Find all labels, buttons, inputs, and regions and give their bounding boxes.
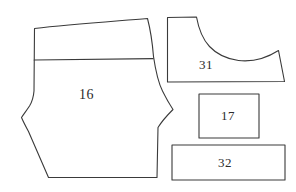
piece-31-outline	[168, 17, 285, 82]
pattern-outlines-svg	[0, 0, 296, 192]
piece-16-label: 16	[79, 87, 94, 103]
piece-16-outline	[22, 19, 174, 178]
piece-17-label: 17	[221, 108, 235, 124]
pattern-diagram-canvas: 16 31 17 32	[0, 0, 296, 192]
piece-31-label: 31	[199, 57, 213, 73]
piece-32-label: 32	[218, 155, 232, 171]
